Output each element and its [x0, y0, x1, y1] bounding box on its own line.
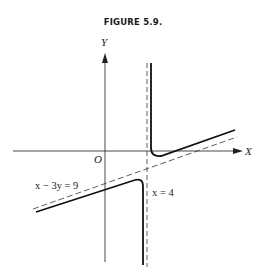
- x-axis-arrow-icon: [233, 148, 243, 154]
- x-axis: [13, 148, 243, 154]
- y-axis-arrow-icon: [102, 53, 108, 63]
- y-axis: [102, 53, 108, 262]
- x-axis-label: X: [244, 145, 253, 157]
- oblique-asymptote: [33, 137, 237, 209]
- origin-label: O: [94, 153, 102, 165]
- figure-diagram: FIGURE 5.9. Y X O x − 3y = 9 x = 4: [0, 0, 265, 280]
- curve-lower-branch: [36, 180, 143, 265]
- y-axis-label: Y: [101, 36, 109, 48]
- vertical-asymptote-label: x = 4: [152, 187, 174, 198]
- figure-title: FIGURE 5.9.: [104, 17, 163, 27]
- oblique-asymptote-label: x − 3y = 9: [35, 180, 78, 191]
